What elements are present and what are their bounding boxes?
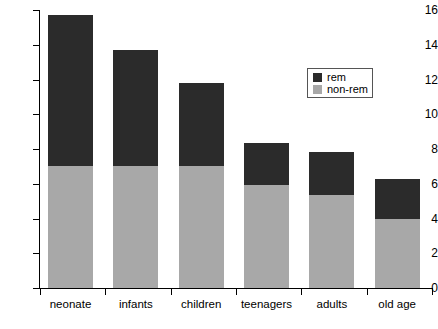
y-axis-tick: [33, 253, 39, 254]
bar-segment-rem: [113, 50, 158, 166]
bar-segment-non-rem: [113, 166, 158, 288]
x-axis-tick: [236, 289, 237, 295]
x-axis-category-label: infants: [119, 299, 153, 311]
x-axis-category-label: neonate: [50, 299, 92, 311]
x-axis-tick: [40, 289, 41, 295]
bar-segment-non-rem: [179, 166, 224, 288]
legend-item-label: rem: [327, 72, 346, 83]
bar-segment-rem: [244, 143, 289, 185]
x-axis-tick: [301, 289, 302, 295]
legend-swatch-icon: [313, 85, 322, 94]
bar-segment-rem: [48, 15, 93, 166]
bar-stack: [113, 50, 158, 288]
y-axis-tick: [33, 219, 39, 220]
legend-swatch-icon: [313, 73, 322, 82]
x-axis-category-label: old age: [378, 299, 416, 311]
bar-segment-non-rem: [375, 219, 420, 288]
y-axis-tick: [33, 80, 39, 81]
bar-segment-rem: [375, 179, 420, 219]
stacked-bar-chart: 0246810121416 neonateinfantschildrenteen…: [0, 0, 438, 329]
y-axis-tick: [33, 45, 39, 46]
bar-stack: [309, 152, 354, 288]
x-axis-tick: [432, 289, 433, 295]
y-axis-tick: [33, 149, 39, 150]
legend-item: non-rem: [313, 83, 368, 96]
bar-stack: [375, 179, 420, 288]
x-axis-category-label: teenagers: [241, 299, 292, 311]
bar-segment-non-rem: [48, 166, 93, 288]
bar-stack: [179, 83, 224, 288]
bar-segment-non-rem: [309, 195, 354, 288]
bar-stack: [48, 15, 93, 288]
y-axis-tick: [33, 288, 39, 289]
x-axis-category-label: adults: [316, 299, 347, 311]
y-axis-tick: [33, 184, 39, 185]
legend-item-label: non-rem: [327, 84, 368, 95]
plot-area: [40, 10, 432, 288]
bar-segment-rem: [309, 152, 354, 195]
y-axis-tick: [33, 10, 39, 11]
chart-legend: remnon-rem: [307, 68, 373, 98]
x-axis-category-label: children: [181, 299, 221, 311]
bar-segment-non-rem: [244, 185, 289, 288]
bar-stack: [244, 143, 289, 288]
x-axis-tick: [105, 289, 106, 295]
x-axis-tick: [171, 289, 172, 295]
bar-segment-rem: [179, 83, 224, 166]
x-axis-tick: [367, 289, 368, 295]
y-axis-tick: [33, 114, 39, 115]
